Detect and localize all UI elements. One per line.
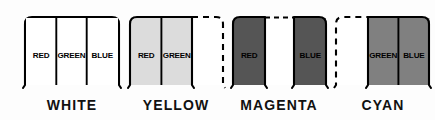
panel-magenta-channel-red-label: RED: [241, 51, 258, 60]
panel-cyan-channel-red-fill: [337, 18, 368, 85]
panel-magenta: RED BLUE MAGENTA: [231, 17, 328, 113]
panel-cyan-caption: CYAN: [362, 97, 405, 113]
panel-magenta-caption: MAGENTA: [240, 97, 317, 113]
panel-yellow-caption: YELLOW: [143, 97, 209, 113]
panel-cyan-channel-green-label: GREEN: [369, 51, 397, 60]
figure-canvas: RED GREEN BLUE WHITE RED GREEN YELLOW: [0, 0, 435, 120]
panel-cyan: GREEN BLUE CYAN: [334, 17, 431, 113]
panel-white-caption: WHITE: [47, 97, 98, 113]
panel-magenta-channel-blue-label: BLUE: [300, 51, 322, 60]
panel-yellow: RED GREEN YELLOW: [128, 17, 225, 113]
panel-yellow-channel-blue-fill: [192, 18, 223, 85]
panel-yellow-channel-red-label: RED: [138, 51, 155, 60]
panel-white-channel-green-label: GREEN: [57, 51, 85, 60]
color-channel-figure: RED GREEN BLUE WHITE RED GREEN YELLOW: [0, 0, 435, 120]
panel-white-channel-blue-label: BLUE: [92, 51, 114, 60]
panel-white: RED GREEN BLUE WHITE: [23, 17, 121, 113]
panel-cyan-channel-blue-label: BLUE: [403, 51, 425, 60]
panel-white-channel-red-label: RED: [33, 51, 50, 60]
panel-yellow-channel-green-label: GREEN: [163, 51, 191, 60]
panel-magenta-channel-green-fill: [264, 18, 294, 85]
